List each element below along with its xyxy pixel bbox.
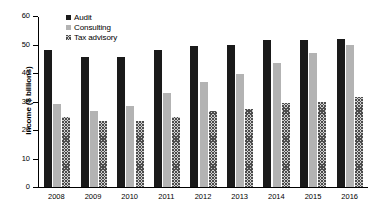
y-axis-tick-label: 60 <box>22 11 30 20</box>
x-axis-tick-label: 2008 <box>38 192 75 201</box>
bar-consulting-2016 <box>346 45 354 188</box>
bar-tax-advisory-2012 <box>209 111 217 187</box>
bar-audit-2015 <box>300 40 308 187</box>
y-axis-tick: 40 <box>33 73 38 74</box>
bar-group <box>112 17 149 187</box>
y-axis-tick: 60 <box>33 16 38 17</box>
legend-label: Audit <box>74 13 92 22</box>
bar-group <box>222 17 259 187</box>
bar-tax-advisory-2015 <box>318 102 326 188</box>
legend-label: Consulting <box>74 23 111 32</box>
bar-consulting-2013 <box>236 74 244 187</box>
legend-item-audit[interactable]: Audit <box>66 13 117 23</box>
legend-swatch-icon <box>66 15 71 20</box>
bar-consulting-2010 <box>126 106 134 187</box>
bar-group <box>258 17 295 187</box>
legend-label: Tax advisory <box>74 33 117 42</box>
x-axis-labels: 200820092010201120122013201420152016 <box>38 192 368 201</box>
bar-audit-2012 <box>190 46 198 187</box>
y-axis-tick-label: 40 <box>22 68 30 77</box>
x-axis-tick-label: 2015 <box>295 192 332 201</box>
legend-item-tax-advisory[interactable]: Tax advisory <box>66 33 117 43</box>
y-axis-tick: 50 <box>33 45 38 46</box>
bar-consulting-2011 <box>163 93 171 187</box>
y-axis-tick-label: 10 <box>22 154 30 163</box>
bar-audit-2011 <box>154 50 162 187</box>
bar-tax-advisory-2010 <box>136 121 144 187</box>
bar-audit-2009 <box>81 57 89 187</box>
legend-item-consulting[interactable]: Consulting <box>66 23 117 33</box>
bar-chart: Income ($ billions) 0102030405060 200820… <box>0 0 376 219</box>
bar-audit-2010 <box>117 57 125 187</box>
x-axis-tick-label: 2011 <box>148 192 185 201</box>
x-axis-tick-label: 2013 <box>221 192 258 201</box>
y-axis-tick: 0 <box>33 187 38 188</box>
y-axis-tick: 10 <box>33 159 38 160</box>
x-axis-tick-label: 2016 <box>331 192 368 201</box>
bar-tax-advisory-2013 <box>245 109 253 187</box>
bar-group <box>185 17 222 187</box>
y-axis-tick-label: 0 <box>26 182 30 191</box>
bar-audit-2013 <box>227 45 235 188</box>
x-axis-tick-label: 2010 <box>111 192 148 201</box>
bar-audit-2014 <box>263 40 271 187</box>
bar-group <box>332 17 369 187</box>
x-axis-tick-label: 2009 <box>75 192 112 201</box>
bar-tax-advisory-2008 <box>62 117 70 187</box>
y-axis-tick: 20 <box>33 130 38 131</box>
bar-tax-advisory-2009 <box>99 121 107 187</box>
bar-consulting-2014 <box>273 63 281 187</box>
bar-consulting-2015 <box>309 53 317 187</box>
bar-consulting-2012 <box>200 82 208 187</box>
bar-group <box>149 17 186 187</box>
legend-swatch-icon <box>66 25 71 30</box>
bar-consulting-2009 <box>90 111 98 187</box>
bar-consulting-2008 <box>53 104 61 187</box>
y-axis-tick-label: 30 <box>22 97 30 106</box>
bar-group <box>295 17 332 187</box>
chart-legend: AuditConsultingTax advisory <box>66 13 117 43</box>
bar-audit-2016 <box>337 39 345 187</box>
bar-audit-2008 <box>44 50 52 187</box>
bar-tax-advisory-2011 <box>172 117 180 187</box>
x-axis-line <box>38 187 368 188</box>
x-axis-tick-label: 2012 <box>185 192 222 201</box>
y-axis-tick-label: 50 <box>22 40 30 49</box>
bar-tax-advisory-2016 <box>355 97 363 187</box>
x-axis-tick-label: 2014 <box>258 192 295 201</box>
y-axis-tick: 30 <box>33 102 38 103</box>
y-axis-tick-label: 20 <box>22 125 30 134</box>
legend-swatch-icon <box>66 35 71 40</box>
bar-tax-advisory-2014 <box>282 103 290 187</box>
